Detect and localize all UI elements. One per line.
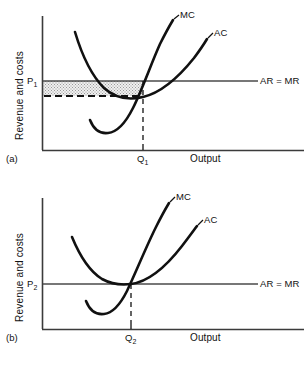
x-axis-label-b: Output (190, 333, 221, 343)
quantity-label-a: Q1 (137, 154, 149, 166)
mc-label-b: MC (176, 192, 191, 202)
ar-mr-label-a: AR = MR (260, 76, 300, 86)
ac-leader-b (198, 220, 203, 225)
ar-mr-label-b: AR = MR (260, 279, 300, 289)
x-axis-label-a: Output (190, 154, 221, 164)
panel-a: Revenue and costs P1 Q1 Output MC AC AR … (0, 0, 307, 184)
panel-b-plot (0, 184, 307, 368)
supernormal-profit-area (43, 81, 143, 96)
mc-label-a: MC (180, 10, 195, 20)
panel-tag-b: (b) (6, 332, 18, 343)
panel-tag-a: (a) (6, 153, 18, 164)
price-label-b: P2 (27, 279, 37, 291)
price-label-a: P1 (27, 76, 37, 88)
panel-a-plot (0, 0, 307, 184)
panel-b: Revenue and costs P2 Q2 Output MC AC AR … (0, 184, 307, 368)
mc-curve-a (90, 20, 173, 133)
y-axis-label-a: Revenue and costs (14, 51, 25, 140)
mc-leader-a (174, 15, 179, 19)
quantity-label-b: Q2 (125, 333, 137, 345)
ac-label-b: AC (204, 215, 217, 225)
economics-figure: Revenue and costs P1 Q1 Output MC AC AR … (0, 0, 307, 368)
ac-label-a: AC (214, 28, 227, 38)
y-axis-label-b: Revenue and costs (14, 233, 25, 322)
mc-curve-b (86, 203, 169, 314)
ac-leader-a (208, 33, 213, 38)
mc-leader-b (170, 197, 175, 202)
